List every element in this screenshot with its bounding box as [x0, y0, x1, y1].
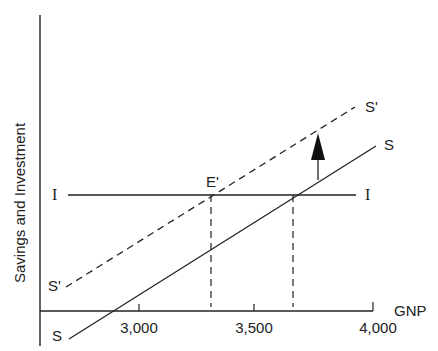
y-axis-label: Savings and Investment	[11, 122, 28, 283]
tick-label-3500: 3,500	[235, 319, 273, 336]
tick-label-4000: 4,000	[359, 319, 397, 336]
savings-line-s	[69, 146, 376, 339]
i-start-label: I	[52, 186, 57, 203]
s-start-label: S	[52, 327, 62, 344]
shift-arrow-head-icon	[311, 133, 325, 160]
s-end-label: S	[384, 136, 394, 153]
sprime-end-label: S'	[365, 98, 378, 115]
eprime-label: E'	[206, 173, 219, 190]
x-axis-label: GNP	[394, 302, 427, 319]
savings-investment-chart: Savings and Investment GNP 3,000 3,500 4…	[0, 0, 438, 351]
tick-label-3000: 3,000	[120, 319, 158, 336]
sprime-start-label: S'	[48, 277, 61, 294]
i-end-label: I	[365, 186, 370, 203]
